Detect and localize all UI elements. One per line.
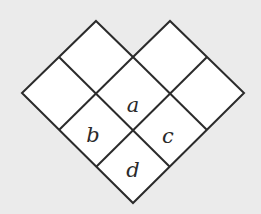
cell-label-a: a bbox=[127, 95, 140, 116]
cell-label-d: d bbox=[126, 160, 139, 181]
cell-label-c: c bbox=[162, 126, 174, 147]
heart-diamond-diagram: a b c d bbox=[0, 0, 261, 214]
cell-label-b: b bbox=[86, 125, 99, 146]
